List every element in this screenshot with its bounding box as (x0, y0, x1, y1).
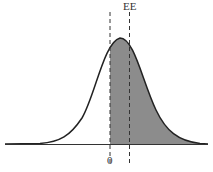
bell-curve (5, 38, 208, 144)
normal-distribution-diagram (0, 0, 213, 172)
ee-label: EE (123, 0, 136, 12)
zero-label: 0 (107, 154, 113, 166)
